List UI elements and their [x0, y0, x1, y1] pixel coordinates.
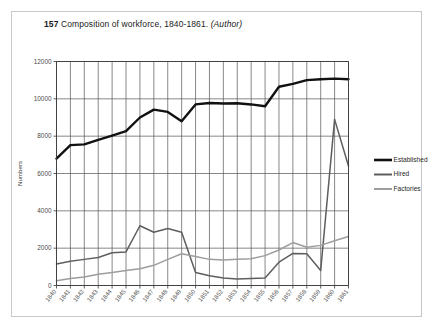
y-tick-labels: 020004000600080001000012000: [34, 58, 52, 289]
chart-legend: EstablishedHiredFactories: [374, 156, 428, 192]
x-tick-label: 1859: [308, 287, 322, 302]
x-tick-label: 1849: [169, 287, 183, 302]
y-tick-label: 6000: [37, 170, 52, 177]
x-tick-label: 1860: [322, 287, 336, 302]
x-tick-label: 1851: [196, 287, 210, 302]
y-tick-label: 2000: [37, 244, 52, 251]
x-tick-label: 1858: [294, 287, 308, 302]
y-tick-label: 10000: [34, 95, 52, 102]
x-tick-label: 1857: [280, 287, 294, 302]
workforce-line-chart: 020004000600080001000012000 184018411842…: [0, 0, 435, 330]
x-tick-label: 1856: [266, 287, 280, 302]
y-tick-label: 12000: [34, 58, 52, 65]
x-tick-label: 1842: [71, 287, 85, 302]
x-tick-label: 1846: [127, 287, 141, 302]
legend-label-hired: Hired: [394, 170, 410, 177]
x-tick-label: 1841: [57, 287, 71, 302]
x-tick-label: 1847: [141, 287, 155, 302]
x-tick-label: 1840: [43, 287, 57, 302]
x-tick-label: 1861: [335, 287, 349, 302]
x-tick-label: 1844: [99, 287, 113, 302]
y-tick-label: 4000: [37, 207, 52, 214]
legend-label-factories: Factories: [394, 185, 422, 192]
chart-container: 020004000600080001000012000 184018411842…: [0, 0, 435, 330]
y-tick-label: 8000: [37, 132, 52, 139]
x-tick-label: 1848: [155, 287, 169, 302]
grid-layer: [57, 62, 349, 286]
y-axis-title-text: Numbers: [16, 161, 23, 186]
x-tick-labels: 1840184118421843184418451846184718481849…: [43, 287, 349, 302]
x-tick-label: 1853: [224, 287, 238, 302]
legend-label-established: Established: [394, 156, 428, 163]
x-tick-label: 1855: [252, 287, 266, 302]
x-tick-label: 1852: [210, 287, 224, 302]
x-tick-label: 1854: [238, 287, 252, 302]
x-tick-label: 1850: [182, 287, 196, 302]
y-axis-title: Numbers: [16, 161, 23, 186]
x-tick-label: 1845: [113, 287, 127, 302]
x-tick-label: 1843: [85, 287, 99, 302]
